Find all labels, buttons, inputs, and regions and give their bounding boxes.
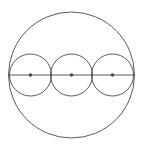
geometry-canvas xyxy=(0,0,143,148)
geometry-figure xyxy=(0,0,143,148)
center-dot-middle xyxy=(70,73,74,77)
center-dot-right xyxy=(111,73,115,77)
center-dot-left xyxy=(29,73,33,77)
